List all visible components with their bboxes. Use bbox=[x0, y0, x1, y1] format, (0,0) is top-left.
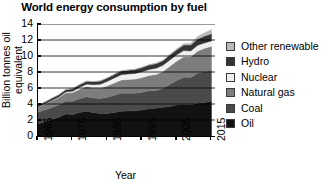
x-tick-2005: 2005 bbox=[180, 118, 192, 141]
y-tick-mark-6 bbox=[37, 87, 41, 88]
legend-label: Hydro bbox=[241, 55, 269, 67]
chart-legend: Other renewableHydroNuclearNatural gasCo… bbox=[226, 40, 334, 132]
legend-item-hydro[interactable]: Hydro bbox=[226, 55, 334, 70]
y-tick-mark-2 bbox=[37, 119, 41, 120]
y-tick-0: 0 bbox=[17, 130, 33, 140]
x-tick-mark-1995 bbox=[140, 136, 141, 140]
legend-item-other-renewable[interactable]: Other renewable bbox=[226, 40, 334, 55]
x-tick-1995: 1995 bbox=[146, 118, 158, 141]
legend-label: Natural gas bbox=[241, 86, 295, 98]
y-tick-2: 2 bbox=[17, 114, 33, 124]
x-tick-mark-2005 bbox=[175, 136, 176, 140]
legend-swatch-icon bbox=[226, 42, 235, 51]
legend-item-natural-gas[interactable]: Natural gas bbox=[226, 86, 334, 101]
y-tick-mark-4 bbox=[37, 103, 41, 104]
y-tick-6: 6 bbox=[17, 82, 33, 92]
x-tick-mark-1985 bbox=[106, 136, 107, 140]
y-tick-mark-10 bbox=[37, 55, 41, 56]
y-tick-mark-12 bbox=[37, 39, 41, 40]
x-axis-label: Year bbox=[37, 169, 214, 181]
y-axis-tick-labels: 02468101214 bbox=[14, 0, 33, 186]
x-tick-1975: 1975 bbox=[76, 118, 88, 141]
legend-item-coal[interactable]: Coal bbox=[226, 102, 334, 117]
chart-container: World energy consumption by fuel Billion… bbox=[0, 0, 334, 186]
y-tick-14: 14 bbox=[17, 18, 33, 28]
x-tick-mark-1975 bbox=[71, 136, 72, 140]
y-tick-12: 12 bbox=[17, 34, 33, 44]
legend-item-oil[interactable]: Oil bbox=[226, 117, 334, 132]
y-tick-10: 10 bbox=[17, 50, 33, 60]
y-tick-4: 4 bbox=[17, 98, 33, 108]
legend-swatch-icon bbox=[226, 88, 235, 97]
x-tick-1965: 1965 bbox=[42, 118, 54, 141]
y-tick-mark-14 bbox=[37, 23, 41, 24]
legend-label: Nuclear bbox=[241, 71, 277, 83]
y-tick-mark-0 bbox=[37, 135, 41, 136]
chart-title: World energy consumption by fuel bbox=[0, 1, 228, 13]
x-tick-1985: 1985 bbox=[111, 118, 123, 141]
legend-label: Coal bbox=[241, 102, 263, 114]
legend-label: Other renewable bbox=[241, 40, 319, 52]
y-tick-mark-8 bbox=[37, 71, 41, 72]
legend-swatch-icon bbox=[226, 57, 235, 66]
legend-swatch-icon bbox=[226, 104, 235, 113]
legend-swatch-icon bbox=[226, 119, 235, 128]
legend-item-nuclear[interactable]: Nuclear bbox=[226, 71, 334, 86]
legend-label: Oil bbox=[241, 117, 254, 129]
x-tick-mark-2015 bbox=[210, 136, 211, 140]
legend-swatch-icon bbox=[226, 73, 235, 82]
y-tick-8: 8 bbox=[17, 66, 33, 76]
